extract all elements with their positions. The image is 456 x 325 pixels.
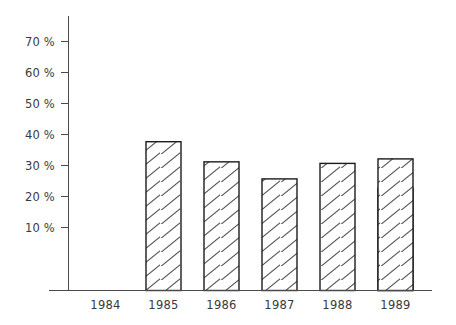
x-tick-label-1987: 1987 bbox=[264, 298, 294, 312]
x-tick-label-1988: 1988 bbox=[322, 298, 352, 312]
y-axis: 70 % 60 % 50 % 40 % 30 % 20 % 10 % bbox=[25, 16, 69, 291]
bars-group bbox=[146, 142, 413, 291]
bar-1984[interactable] bbox=[146, 142, 181, 291]
bar-1986[interactable] bbox=[262, 179, 297, 291]
y-tick-label-40: 40 % bbox=[25, 128, 55, 142]
y-tick-label-70: 70 % bbox=[25, 35, 55, 49]
bar-1989[interactable] bbox=[378, 159, 413, 291]
y-tick-label-10: 10 % bbox=[25, 221, 55, 235]
y-tick-label-60: 60 % bbox=[25, 66, 55, 80]
bar-1985[interactable] bbox=[204, 162, 239, 291]
x-axis-tick-labels: 1984 1985 1986 1987 1988 1989 bbox=[90, 298, 410, 312]
x-tick-label-1984: 1984 bbox=[90, 298, 120, 312]
bar-chart-figure: 70 % 60 % 50 % 40 % 30 % 20 % 10 % 1984 … bbox=[0, 0, 456, 325]
y-tick-label-20: 20 % bbox=[25, 190, 55, 204]
y-tick-label-30: 30 % bbox=[25, 159, 55, 173]
chart-canvas: 70 % 60 % 50 % 40 % 30 % 20 % 10 % 1984 … bbox=[0, 0, 456, 325]
bar-1987[interactable] bbox=[320, 163, 355, 290]
x-tick-label-1985: 1985 bbox=[148, 298, 178, 312]
x-tick-label-1989: 1989 bbox=[380, 298, 410, 312]
y-axis-ticks bbox=[61, 42, 69, 228]
x-axis: 1984 1985 1986 1987 1988 1989 bbox=[49, 291, 432, 313]
y-axis-tick-labels: 70 % 60 % 50 % 40 % 30 % 20 % 10 % bbox=[25, 35, 55, 235]
x-tick-label-1986: 1986 bbox=[206, 298, 236, 312]
y-tick-label-50: 50 % bbox=[25, 97, 55, 111]
